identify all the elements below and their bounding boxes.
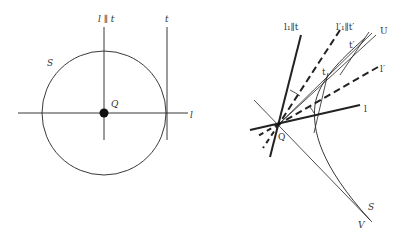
curve-s [314,38,370,220]
label-q: Q [111,99,119,109]
label-u: U [380,26,388,36]
label-t: t [322,67,326,77]
right-figure [250,30,378,222]
label-t: t [165,14,169,24]
point-q [100,109,109,118]
label-s: S [368,202,374,212]
angle-arc-1 [290,90,300,96]
label-l-prime: l′ [380,64,385,74]
angle-arc-2 [310,107,314,113]
point-q [277,122,281,126]
figure-canvas: S Q l l ∥ t t l₁∥t l′₁∥t′ U t′ l′ t l Q [0,0,400,242]
line-l [250,105,360,130]
label-s: S [47,58,53,68]
line-t-prime [340,32,369,75]
label-l-parallel-t: l ∥ t [98,14,115,24]
line-l1p-parallel-tp [279,30,340,124]
label-l: l [190,110,193,120]
label-q: Q [278,132,285,142]
left-figure [18,27,188,175]
label-t-prime: t′ [349,40,355,50]
label-v: V [358,220,366,230]
label-l1-parallel-t: l₁∥t [284,22,299,32]
label-l1p-parallel-tp: l′₁∥t′ [336,22,354,32]
label-l: l [364,104,367,114]
line-v [254,100,372,222]
line-l1p-ext [263,124,279,148]
